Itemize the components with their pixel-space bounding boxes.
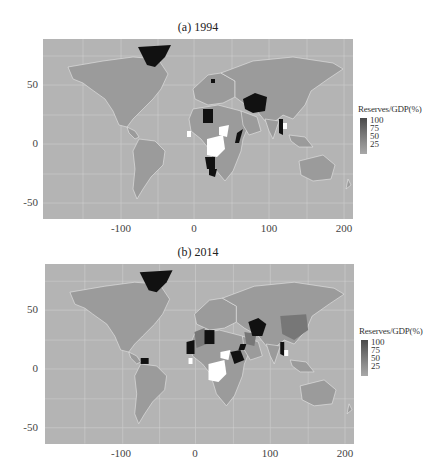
legend-colorbar [360,118,367,154]
europe [193,73,235,105]
y-tick-50-a: 50 [8,78,38,90]
australia [299,155,335,181]
map-plot-2014 [45,264,354,444]
world-map-1994 [43,39,353,219]
legend-1994: Reserves/GDP(%) 100 75 50 25 [358,104,448,156]
world-map-2014 [45,264,354,444]
legend-label-25: 25 [371,362,380,371]
x-tick-neg100-a: -100 [101,222,141,234]
y-tick-0-a: 0 [8,137,38,149]
south-america [133,139,165,199]
venezuela-high [141,358,149,364]
y-tick-neg50-a: -50 [8,196,38,208]
libya-high [204,330,214,344]
y-tick-0-b: 0 [8,362,38,374]
x-tick-100-a: 100 [249,222,289,234]
legend-title: Reserves/GDP(%) [359,326,448,336]
legend-2014: Reserves/GDP(%) 100 75 50 25 [359,326,448,378]
libya-high [203,109,213,123]
map-plot-1994 [43,39,353,219]
y-tick-50-b: 50 [8,303,38,315]
myanmar-high [279,119,283,135]
panel-b-title: (b) 2014 [138,245,258,260]
x-tick-200-a: 200 [324,222,364,234]
x-tick-0-a: 0 [174,222,214,234]
panel-a-title: (a) 1994 [138,20,258,35]
angola-high [205,157,215,169]
mauritania-high [187,340,195,354]
x-tick-200-b: 200 [325,447,365,459]
y-tick-neg50-b: -50 [8,421,38,433]
legend-title: Reserves/GDP(%) [358,104,448,114]
x-tick-neg100-b: -100 [101,447,141,459]
legend-colorbar [361,340,368,376]
legend-label-25: 25 [370,140,379,149]
myanmar-high [280,342,284,356]
x-tick-100-b: 100 [250,447,290,459]
x-tick-0-b: 0 [175,447,215,459]
botswana-high [209,169,217,177]
